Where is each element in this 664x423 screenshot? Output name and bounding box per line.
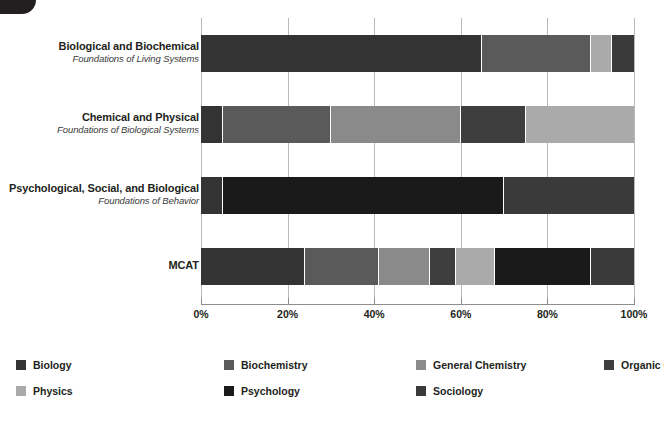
bar-segment-biochemistry [305, 248, 379, 285]
legend-label: Sociology [433, 385, 483, 397]
category-label: MCAT [7, 259, 199, 272]
legend-swatch-icon [224, 360, 234, 370]
legend-item-biology[interactable]: Biology [16, 359, 72, 371]
category-title: Biological and Biochemical [7, 40, 199, 53]
bar-segment-organic-chemistry [430, 248, 456, 285]
bar-segment-psychology [495, 248, 590, 285]
bar-segment-physics [456, 248, 495, 285]
legend-swatch-icon [224, 386, 234, 396]
x-axis-tick [288, 298, 289, 305]
bar-segment-biochemistry [482, 35, 590, 72]
bar-segment-general-chemistry [331, 106, 461, 143]
legend-item-physics[interactable]: Physics [16, 385, 73, 397]
legend-item-sociology[interactable]: Sociology [416, 385, 483, 397]
x-axis-tick [634, 298, 635, 305]
chart-page: Biological and BiochemicalFoundations of… [0, 0, 664, 423]
legend-row-2: PhysicsPsychologySociology [16, 383, 648, 409]
category-subtitle: Foundations of Behavior [7, 195, 199, 206]
x-axis-tick-label: 80% [537, 308, 558, 320]
legend-swatch-icon [604, 360, 614, 370]
gridline-100 [634, 18, 635, 304]
legend-swatch-icon [416, 386, 426, 396]
bar-segment-sociology [591, 248, 634, 285]
x-axis-tick-label: 0% [193, 308, 208, 320]
bar-segment-biology [201, 248, 305, 285]
bar-segment-sociology [612, 35, 634, 72]
x-axis-line [201, 304, 635, 305]
bar-segment-sociology [504, 177, 634, 214]
x-axis-tick-label: 100% [621, 308, 648, 320]
page-corner-mark [0, 0, 36, 14]
bar-row [201, 35, 634, 72]
x-axis-tick [201, 298, 202, 305]
bar-segment-general-chemistry [379, 248, 431, 285]
bar-segment-biology [201, 106, 223, 143]
legend-item-general-chemistry[interactable]: General Chemistry [416, 359, 526, 371]
legend-label: Organic Chemistry [621, 359, 664, 371]
legend-label: Psychology [241, 385, 300, 397]
category-title: Chemical and Physical [7, 111, 199, 124]
category-subtitle: Foundations of Living Systems [7, 53, 199, 64]
bar-segment-physics [526, 106, 634, 143]
legend-label: Physics [33, 385, 73, 397]
bar-segment-biology [201, 35, 482, 72]
legend-label: General Chemistry [433, 359, 526, 371]
legend-label: Biochemistry [241, 359, 308, 371]
category-label: Chemical and PhysicalFoundations of Biol… [7, 111, 199, 135]
bar-segment-biology [201, 177, 223, 214]
plot-area [201, 18, 634, 304]
bar-segment-biochemistry [223, 106, 331, 143]
bar-segment-organic-chemistry [461, 106, 526, 143]
bar-row [201, 106, 634, 143]
x-axis-tick [461, 298, 462, 305]
category-subtitle: Foundations of Biological Systems [7, 124, 199, 135]
x-axis-tick [374, 298, 375, 305]
category-title: Psychological, Social, and Biological [7, 182, 199, 195]
chart-legend: BiologyBiochemistryGeneral ChemistryOrga… [16, 357, 648, 409]
legend-item-organic-chemistry[interactable]: Organic Chemistry [604, 359, 664, 371]
x-axis-tick-label: 60% [450, 308, 471, 320]
x-axis-tick [547, 298, 548, 305]
legend-swatch-icon [16, 386, 26, 396]
legend-item-biochemistry[interactable]: Biochemistry [224, 359, 308, 371]
legend-item-psychology[interactable]: Psychology [224, 385, 300, 397]
x-axis-tick-label: 40% [364, 308, 385, 320]
bar-row [201, 177, 634, 214]
bar-segment-physics [591, 35, 613, 72]
legend-swatch-icon [16, 360, 26, 370]
bar-segment-psychology [223, 177, 504, 214]
category-label: Biological and BiochemicalFoundations of… [7, 40, 199, 64]
x-axis-tick-label: 20% [277, 308, 298, 320]
category-title: MCAT [7, 259, 199, 272]
category-label: Psychological, Social, and BiologicalFou… [7, 182, 199, 206]
bar-row [201, 248, 634, 285]
legend-row-1: BiologyBiochemistryGeneral ChemistryOrga… [16, 357, 648, 383]
legend-label: Biology [33, 359, 72, 371]
legend-swatch-icon [416, 360, 426, 370]
